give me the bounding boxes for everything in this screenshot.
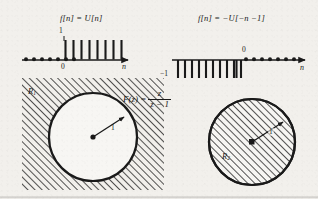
transfer-function-lhs: F(z) = [123, 95, 146, 104]
denominator: z − 1 [148, 100, 171, 109]
top-left-equation: f[n] = U[n] [60, 14, 102, 23]
anticausal-unit-step-stem-plot [172, 57, 305, 78]
top-right-equation: f[n] = −U[−n −1] [198, 14, 265, 23]
roc-interior-diagram [207, 97, 297, 187]
unit-step-stems [66, 40, 122, 60]
roc-interior-label: R2 [222, 152, 230, 162]
roc-exterior-label: R1 [28, 87, 36, 97]
top-right-axis-label: n [300, 64, 304, 72]
top-right-origin-label: 0 [242, 46, 246, 54]
roc-interior-label-subscript: 2 [227, 155, 230, 161]
numerator: z [148, 89, 171, 98]
top-left-axis-label: n [122, 63, 126, 71]
top-left-amplitude-label: 1 [59, 27, 63, 35]
roc-interior-radius-label: 1 [268, 128, 274, 136]
top-right-amplitude-label: −1 [160, 70, 168, 78]
transfer-function-fraction: z z − 1 [148, 89, 171, 109]
causal-unit-step-stem-plot [22, 36, 128, 61]
origin-dot [249, 139, 255, 145]
top-left-origin-label: 0 [61, 63, 65, 71]
roc-exterior-label-subscript: 1 [33, 90, 36, 96]
negative-unit-step-stems [178, 60, 241, 78]
transfer-function-equation: F(z) = z z − 1 [123, 89, 171, 109]
roc-exterior-radius-label: 1 [111, 124, 115, 132]
